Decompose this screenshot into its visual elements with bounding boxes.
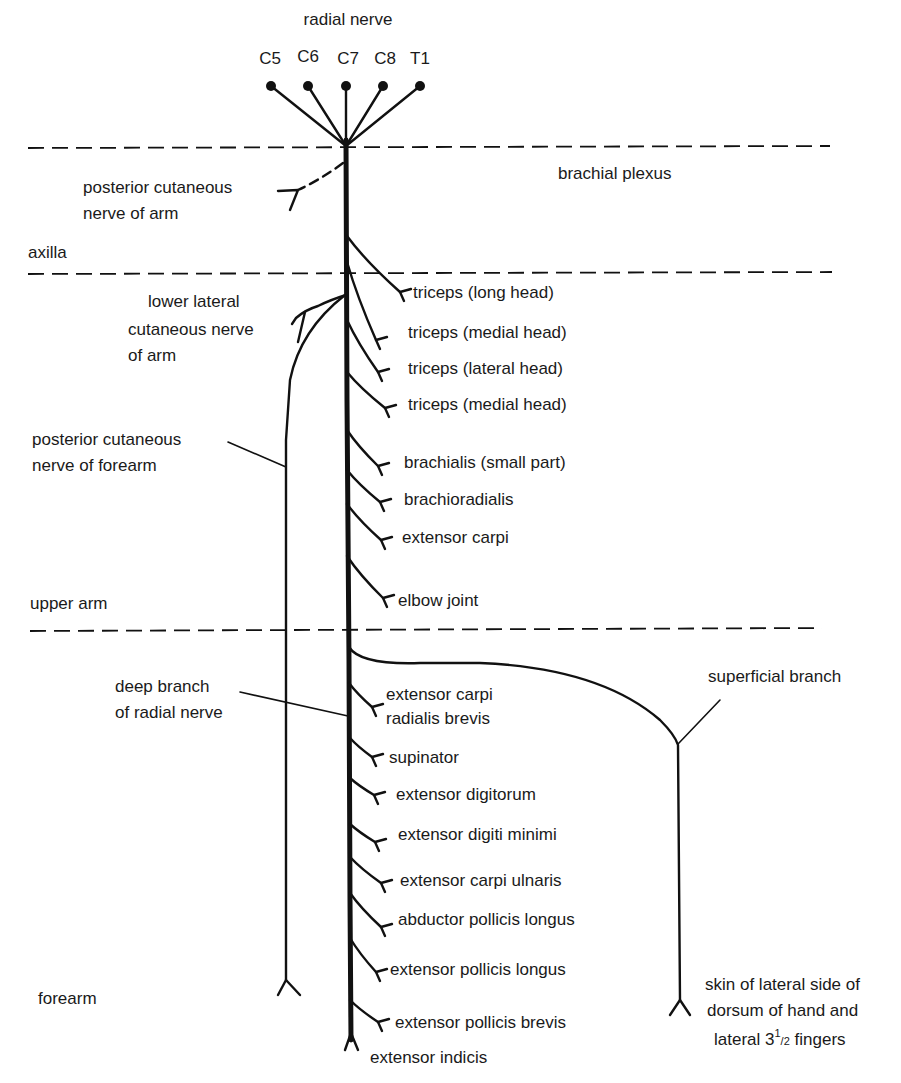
label-forearm-6-extensor-pollicis-brevis: extensor pollicis brevis bbox=[395, 1013, 566, 1032]
label-forearm-7-extensor-indicis: extensor indicis bbox=[370, 1048, 487, 1067]
upper-5-brachioradialis-fork bbox=[380, 499, 391, 511]
root-label-c7: C7 bbox=[337, 49, 359, 68]
label-skin-target-3: lateral 31/2 fingers bbox=[714, 1027, 846, 1049]
upper-7-elbow-joint-fork bbox=[383, 595, 394, 607]
posterior-cutaneous-nerve-of-arm bbox=[298, 163, 343, 190]
forearm-2-extensor-digiti-minimi-branch bbox=[350, 824, 375, 842]
label-forearm-4-abductor-pollicis-longus: abductor pollicis longus bbox=[398, 910, 575, 929]
label-skin-target-1: skin of lateral side of bbox=[705, 975, 860, 994]
label-ecrb-1: extensor carpi bbox=[386, 685, 493, 704]
posterior-cutaneous-arm-fork bbox=[278, 190, 298, 210]
root-label-c5: C5 bbox=[259, 49, 281, 68]
label-upper-2-triceps-lateral-head: triceps (lateral head) bbox=[408, 359, 563, 378]
label-skin-target-2: dorsum of hand and bbox=[707, 1001, 858, 1020]
upper-6-extensor-carpi-fork bbox=[381, 537, 392, 549]
label-upper-1-triceps-medial-head: triceps (medial head) bbox=[408, 323, 567, 342]
root-line-c8 bbox=[346, 86, 383, 146]
region-label-axilla: axilla bbox=[28, 243, 67, 262]
forearm-0-supinator-branch bbox=[350, 738, 372, 757]
divider-plexus-axilla bbox=[28, 146, 830, 148]
root-line-t1 bbox=[346, 86, 420, 146]
label-lower-lateral-3: of arm bbox=[128, 346, 176, 365]
forearm-1-extensor-digitorum-branch bbox=[350, 778, 374, 795]
superficial-branch-fork bbox=[670, 1000, 690, 1015]
upper-2-triceps-lateral-head-branch bbox=[347, 320, 378, 372]
upper-4-brachialis-small-part-fork bbox=[378, 463, 389, 475]
extensor-carpi-radialis-brevis-branch bbox=[349, 683, 372, 707]
label-lower-lateral-1: lower lateral bbox=[148, 292, 240, 311]
label-forearm-5-extensor-pollicis-longus: extensor pollicis longus bbox=[390, 960, 566, 979]
label-upper-5-brachioradialis: brachioradialis bbox=[404, 490, 514, 509]
forearm-branches: supinatorextensor digitorumextensor digi… bbox=[349, 683, 575, 1067]
region-label-upper-arm: upper arm bbox=[30, 594, 107, 613]
root-dot-c6 bbox=[303, 81, 313, 91]
label-forearm-0-supinator: supinator bbox=[389, 748, 459, 767]
root-label-t1: T1 bbox=[410, 49, 430, 68]
upper-7-elbow-joint-branch bbox=[347, 556, 383, 598]
label-posterior-cutaneous-arm-1: posterior cutaneous bbox=[83, 178, 232, 197]
root-line-c5 bbox=[271, 86, 346, 146]
upper-2-triceps-lateral-head-fork bbox=[378, 369, 389, 381]
leader-posterior-cutaneous-forearm bbox=[228, 442, 286, 467]
forearm-0-supinator-fork bbox=[372, 754, 383, 766]
nerve-roots bbox=[266, 81, 425, 146]
label-skin-target-3-suffix: fingers bbox=[790, 1030, 846, 1049]
upper-5-brachioradialis-branch bbox=[347, 470, 380, 502]
label-forearm-2-extensor-digiti-minimi: extensor digiti minimi bbox=[398, 825, 557, 844]
root-dot-c5 bbox=[266, 81, 276, 91]
forearm-6-extensor-pollicis-brevis-branch bbox=[350, 1000, 378, 1022]
divider-axilla-upper-arm bbox=[28, 272, 832, 274]
label-ecrb-2: radialis brevis bbox=[386, 709, 490, 728]
root-dot-c7 bbox=[341, 81, 351, 91]
upper-1-triceps-medial-head-fork bbox=[376, 337, 387, 349]
forearm-4-abductor-pollicis-longus-branch bbox=[350, 893, 381, 927]
forearm-4-abductor-pollicis-longus-fork bbox=[381, 924, 392, 936]
label-skin-target-3-prefix: lateral 3 bbox=[714, 1030, 774, 1049]
extensor-carpi-radialis-brevis-fork bbox=[372, 704, 383, 716]
root-dot-c8 bbox=[378, 81, 388, 91]
divider-upper-arm-forearm bbox=[30, 628, 822, 631]
label-lower-lateral-2: cutaneous nerve bbox=[128, 320, 254, 339]
upper-0-triceps-long-head-fork bbox=[400, 289, 411, 301]
posterior-cutaneous-nerve-of-forearm bbox=[286, 295, 345, 980]
label-upper-6-extensor-carpi: extensor carpi bbox=[402, 528, 509, 547]
label-deep-branch-2: of radial nerve bbox=[115, 703, 223, 722]
leader-deep-branch bbox=[240, 692, 348, 716]
forearm-3-extensor-carpi-ulnaris-branch bbox=[350, 857, 381, 883]
forearm-6-extensor-pollicis-brevis-fork bbox=[378, 1019, 389, 1031]
region-label-brachial-plexus: brachial plexus bbox=[558, 164, 671, 183]
label-skin-target-3-frac: /2 bbox=[781, 1035, 790, 1047]
label-forearm-3-extensor-carpi-ulnaris: extensor carpi ulnaris bbox=[400, 871, 562, 890]
label-upper-0-triceps-long-head: triceps (long head) bbox=[413, 283, 554, 302]
leader-superficial-branch bbox=[678, 700, 720, 744]
upper-arm-branches: triceps (long head)triceps (medial head)… bbox=[347, 236, 567, 610]
posterior-cutaneous-forearm-fork bbox=[278, 980, 300, 995]
root-label-c6: C6 bbox=[297, 47, 319, 66]
label-posterior-cutaneous-arm-2: nerve of arm bbox=[83, 204, 178, 223]
label-forearm-1-extensor-digitorum: extensor digitorum bbox=[396, 785, 536, 804]
root-line-c6 bbox=[308, 86, 346, 146]
upper-4-brachialis-small-part-branch bbox=[347, 430, 378, 466]
forearm-5-extensor-pollicis-longus-fork bbox=[376, 969, 387, 981]
radial-nerve-diagram: radial nerve C5 C6 C7 C8 T1 brachial ple… bbox=[0, 0, 901, 1083]
label-posterior-cutaneous-forearm-1: posterior cutaneous bbox=[32, 430, 181, 449]
region-label-forearm: forearm bbox=[38, 989, 97, 1008]
forearm-2-extensor-digiti-minimi-fork bbox=[375, 839, 386, 851]
label-upper-4-brachialis-small-part: brachialis (small part) bbox=[404, 453, 566, 472]
label-upper-3-triceps-medial-head: triceps (medial head) bbox=[408, 395, 567, 414]
forearm-3-extensor-carpi-ulnaris-fork bbox=[381, 880, 392, 892]
label-upper-7-elbow-joint: elbow joint bbox=[398, 591, 479, 610]
root-dot-t1 bbox=[415, 81, 425, 91]
forearm-1-extensor-digitorum-fork bbox=[374, 792, 385, 804]
label-posterior-cutaneous-forearm-2: nerve of forearm bbox=[32, 456, 157, 475]
label-superficial-branch: superficial branch bbox=[708, 667, 841, 686]
root-label-c8: C8 bbox=[374, 49, 396, 68]
upper-6-extensor-carpi-branch bbox=[347, 504, 381, 540]
label-deep-branch-1: deep branch bbox=[115, 677, 210, 696]
upper-3-triceps-medial-head-fork bbox=[385, 405, 396, 417]
forearm-5-extensor-pollicis-longus-branch bbox=[350, 938, 376, 972]
diagram-title: radial nerve bbox=[304, 10, 393, 29]
